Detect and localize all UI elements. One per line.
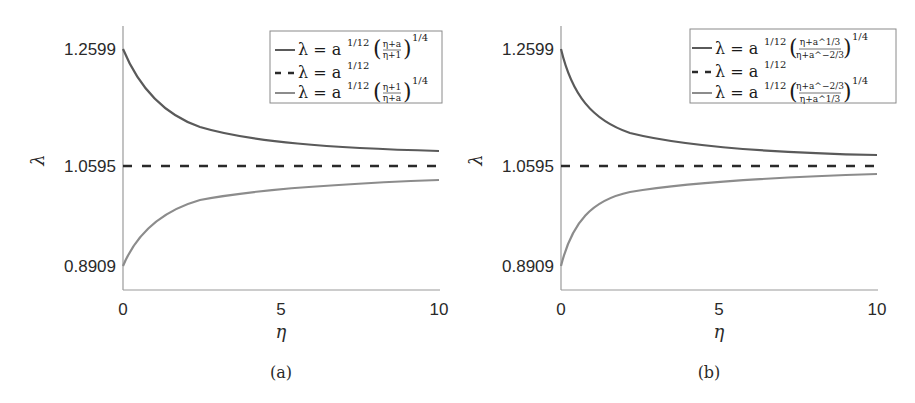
legend-a-item1-num: η+a [383,39,402,49]
ytick-b-3: 0.8909 [502,257,554,276]
legend-a-item3-num: η+1 [383,82,402,92]
legend-b-item1-lambda: λ = a [715,39,759,58]
legend-a-item3-exp: 1/12 [347,80,369,91]
legend-b-item3-pow: 1/4 [852,75,868,86]
xtick-a-1: 0 [118,300,127,319]
chart-panel-a: 1.2599 1.0595 0.8909 0 5 10 η λ (a) λ = … [27,26,448,382]
svg-text:): ) [403,36,412,61]
legend-b-item1-exp: 1/12 [764,36,786,47]
legend-a-item3-pow: 1/4 [412,75,428,86]
legend-a-item1-den: η+1 [383,50,402,60]
legend-b-item1-den: η+a^−2/3 [796,50,844,60]
svg-text:): ) [403,79,412,104]
legend-b-item3-num: η+a^−2/3 [796,81,844,91]
legend-a-item1-exp: 1/12 [347,37,369,48]
xtick-b-3: 10 [868,300,887,319]
svg-text:): ) [843,79,852,104]
ytick-b-2: 1.0595 [502,157,554,176]
svg-text:(: ( [373,79,382,104]
xtick-a-3: 10 [430,300,449,319]
legend-a-item2-lambda: λ = a [298,63,342,82]
legend-b: λ = a 1/12 ( η+a^1/3 η+a^−2/3 ) 1/4 λ = … [690,29,896,104]
svg-text:(: ( [373,36,382,61]
legend-a-item1-pow: 1/4 [412,32,428,43]
caption-a: (a) [270,363,292,382]
xlabel-a: η [276,321,287,342]
chart-panel-b: 1.2599 1.0595 0.8909 0 5 10 η λ (b) λ = … [465,26,896,382]
legend-b-item3-lambda: λ = a [715,83,759,102]
caption-b: (b) [698,363,721,382]
legend-a: λ = a 1/12 ( η+a η+1 ) 1/4 λ = a 1/12 λ … [270,31,442,104]
xtick-a-2: 5 [276,300,285,319]
xlabel-b: η [714,321,725,342]
ylabel-a: λ [27,154,48,166]
xtick-b-2: 5 [714,300,723,319]
legend-a-item1-lambda: λ = a [298,40,342,59]
legend-b-item2-exp: 1/12 [764,59,786,70]
legend-b-item1-num: η+a^1/3 [800,37,841,47]
svg-text:): ) [843,35,852,60]
ytick-a-3: 0.8909 [64,257,116,276]
lower-curve-b [561,174,877,266]
ytick-a-1: 1.2599 [64,40,116,59]
legend-a-item3-lambda: λ = a [298,83,342,102]
legend-b-item1-pow: 1/4 [852,31,868,42]
legend-b-item3-den: η+a^1/3 [800,94,841,104]
legend-b-item2-lambda: λ = a [715,62,759,81]
legend-a-item2-exp: 1/12 [347,60,369,71]
lower-curve-a [123,180,439,266]
legend-a-item3-den: η+a [383,93,402,103]
ytick-b-1: 1.2599 [502,40,554,59]
legend-b-item3-exp: 1/12 [764,80,786,91]
ytick-a-2: 1.0595 [64,157,116,176]
ylabel-b: λ [465,154,486,166]
xtick-b-1: 0 [556,300,565,319]
